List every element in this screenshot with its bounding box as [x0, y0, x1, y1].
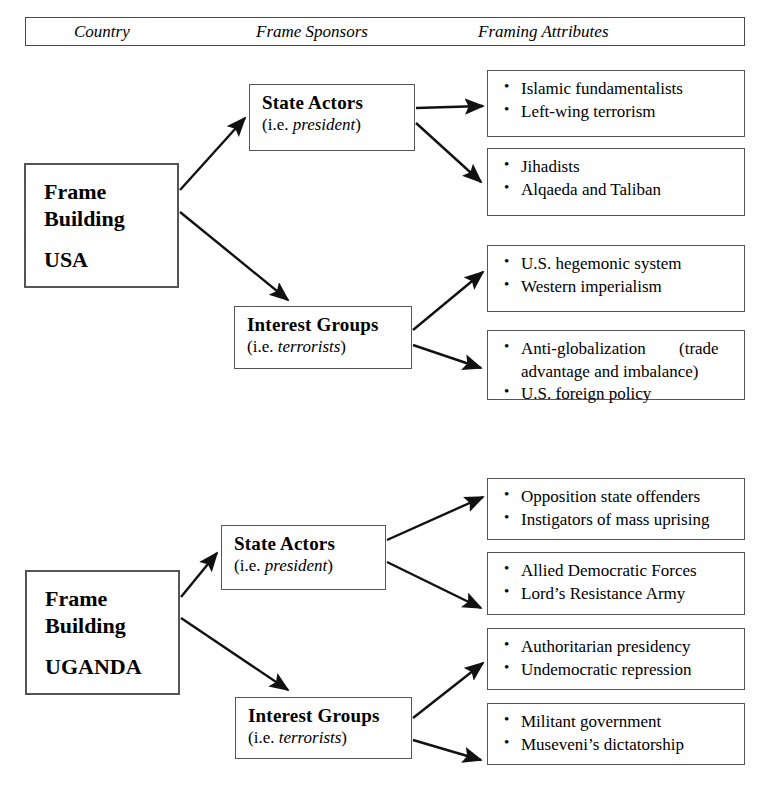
sponsor-box-usa-state-actors: State Actors (i.e. president): [249, 84, 415, 151]
legend-label-country: Country: [74, 22, 130, 42]
attribute-item: Museveni’s dictatorship: [502, 734, 734, 757]
arrow-usa-building-to-interest-groups: [180, 212, 288, 300]
country-box-uganda-name: UGANDA: [45, 654, 178, 680]
attribute-list-uganda-4: Militant government Museveni’s dictators…: [502, 711, 734, 756]
attribute-item: U.S. hegemonic system: [502, 253, 734, 276]
attribute-list-usa-3: U.S. hegemonic system Western imperialis…: [502, 253, 734, 298]
attribute-item: Militant government: [502, 711, 734, 734]
arrow-usa-interest-groups-to-attr-4: [413, 345, 481, 368]
attribute-item: Jihadists: [502, 156, 734, 179]
legend-header-bar: Country Frame Sponsors Framing Attribute…: [25, 17, 745, 46]
attribute-list-usa-4: Anti-globalization(trade advantage and i…: [502, 338, 734, 406]
attribute-item: Opposition state offenders: [502, 486, 734, 509]
legend-label-frame-sponsors: Frame Sponsors: [256, 22, 368, 42]
attribute-box-uganda-1: Opposition state offenders Instigators o…: [487, 478, 745, 540]
attribute-item: Islamic fundamentalists: [502, 78, 734, 101]
arrow-usa-building-to-state-actors: [180, 118, 245, 190]
country-box-uganda: Frame Building UGANDA: [25, 570, 180, 695]
attribute-list-uganda-3: Authoritarian presidency Undemocratic re…: [502, 636, 734, 681]
diagram-canvas: Country Frame Sponsors Framing Attribute…: [0, 0, 777, 805]
arrow-usa-state-actors-to-attr-1: [416, 106, 483, 108]
sponsor-title-usa-interest-groups: Interest Groups: [247, 314, 411, 336]
attribute-item: Alqaeda and Taliban: [502, 179, 734, 202]
legend-label-framing-attributes: Framing Attributes: [478, 22, 609, 42]
country-box-usa-line2: Building: [44, 206, 177, 233]
arrow-usa-interest-groups-to-attr-3: [413, 272, 483, 330]
attribute-item: Instigators of mass uprising: [502, 509, 734, 532]
country-box-usa: Frame Building USA: [24, 163, 179, 288]
attribute-box-usa-3: U.S. hegemonic system Western imperialis…: [487, 245, 745, 312]
attribute-item: Lord’s Resistance Army: [502, 583, 734, 606]
attribute-item: Allied Democratic Forces: [502, 560, 734, 583]
attribute-list-uganda-2: Allied Democratic Forces Lord’s Resistan…: [502, 560, 734, 605]
attribute-box-usa-4: Anti-globalization(trade advantage and i…: [487, 330, 745, 400]
arrow-uganda-state-actors-to-attr-1: [387, 497, 483, 540]
attribute-list-uganda-1: Opposition state offenders Instigators o…: [502, 486, 734, 531]
arrow-uganda-interest-groups-to-attr-3: [413, 663, 483, 718]
arrow-usa-state-actors-to-attr-2: [416, 123, 481, 182]
country-box-uganda-line1: Frame: [45, 586, 178, 613]
attribute-item: Anti-globalization(trade advantage and i…: [502, 338, 734, 383]
attribute-item: Authoritarian presidency: [502, 636, 734, 659]
attribute-item: Left-wing terrorism: [502, 101, 734, 124]
arrow-uganda-interest-groups-to-attr-4: [413, 740, 481, 760]
country-box-usa-line1: Frame: [44, 179, 177, 206]
arrow-uganda-building-to-state-actors: [181, 553, 217, 597]
country-box-usa-name: USA: [44, 247, 177, 273]
attribute-box-uganda-4: Militant government Museveni’s dictators…: [487, 703, 745, 765]
arrow-uganda-building-to-interest-groups: [181, 618, 288, 690]
sponsor-box-uganda-interest-groups: Interest Groups (i.e. terrorists): [235, 697, 412, 759]
sponsor-subtitle-uganda-interest-groups: (i.e. terrorists): [248, 728, 411, 748]
attribute-box-uganda-3: Authoritarian presidency Undemocratic re…: [487, 628, 745, 690]
sponsor-subtitle-usa-interest-groups: (i.e. terrorists): [247, 337, 411, 357]
attribute-box-uganda-2: Allied Democratic Forces Lord’s Resistan…: [487, 552, 745, 615]
sponsor-box-usa-interest-groups: Interest Groups (i.e. terrorists): [234, 306, 412, 369]
sponsor-box-uganda-state-actors: State Actors (i.e. president): [221, 525, 386, 590]
attribute-box-usa-1: Islamic fundamentalists Left-wing terror…: [487, 70, 745, 137]
country-box-uganda-line2: Building: [45, 613, 178, 640]
arrow-uganda-state-actors-to-attr-2: [387, 562, 481, 608]
sponsor-title-uganda-interest-groups: Interest Groups: [248, 705, 411, 727]
attribute-item: U.S. foreign policy: [502, 383, 734, 406]
sponsor-subtitle-uganda-state-actors: (i.e. president): [234, 556, 385, 576]
attribute-list-usa-1: Islamic fundamentalists Left-wing terror…: [502, 78, 734, 123]
attribute-box-usa-2: Jihadists Alqaeda and Taliban: [487, 148, 745, 216]
sponsor-subtitle-usa-state-actors: (i.e. president): [262, 115, 414, 135]
attribute-item: Western imperialism: [502, 276, 734, 299]
sponsor-title-usa-state-actors: State Actors: [262, 92, 414, 114]
attribute-list-usa-2: Jihadists Alqaeda and Taliban: [502, 156, 734, 201]
sponsor-title-uganda-state-actors: State Actors: [234, 533, 385, 555]
attribute-item: Undemocratic repression: [502, 659, 734, 682]
